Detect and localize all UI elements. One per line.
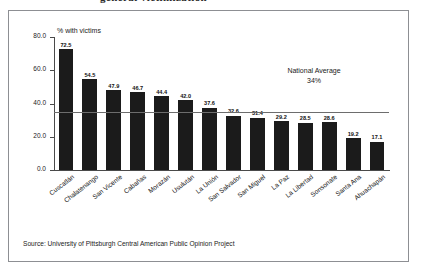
bar-slot: 47.9 [106, 37, 121, 170]
bar-value-label: 54.5 [84, 72, 95, 78]
bar-value-label: 42.0 [180, 93, 191, 99]
bar-slot: 37.6 [202, 37, 217, 170]
y-axis-tick-label: 40.0 [33, 99, 46, 106]
bar-slot: 44.4 [154, 37, 169, 170]
bar-slot: 28.5 [298, 37, 313, 170]
x-axis-category-label: La Paz [270, 173, 290, 191]
bar-slot: 19.2 [346, 37, 361, 170]
bar-value-label: 72.5 [60, 42, 71, 48]
bar-slot: 72.5 [59, 37, 74, 170]
x-axis-line [54, 170, 390, 171]
bar[interactable] [274, 121, 289, 170]
bar-slot: 54.5 [82, 37, 97, 170]
bar-value-label: 46.7 [132, 85, 143, 91]
x-axis-category-label: Morazán [146, 173, 171, 194]
bar-value-label: 47.9 [108, 83, 119, 89]
bar[interactable] [370, 142, 385, 170]
y-axis-tick-mark [50, 170, 54, 171]
national-average-title: National Average [259, 66, 369, 76]
bar[interactable] [346, 138, 361, 170]
bar-value-label: 37.6 [204, 100, 215, 106]
y-axis-label: % with victims [57, 27, 101, 34]
bar-slot: 31.4 [250, 37, 265, 170]
page-title: general victimization [100, 0, 207, 3]
bar-value-label: 44.4 [156, 89, 167, 95]
bar[interactable] [106, 90, 121, 170]
bar-slot: 42.0 [178, 37, 193, 170]
bar[interactable] [130, 92, 145, 170]
y-axis-tick-label: 60.0 [33, 65, 46, 72]
bar[interactable] [226, 116, 241, 170]
bar-slot: 28.6 [322, 37, 337, 170]
bar[interactable] [59, 49, 74, 170]
bar-slot: 46.7 [130, 37, 145, 170]
bar-value-label: 17.1 [372, 134, 383, 140]
bar[interactable] [202, 108, 217, 171]
plot-area: 72.554.547.946.744.442.037.632.631.429.2… [54, 37, 389, 170]
national-average-line [54, 112, 389, 113]
bar-value-label: 28.6 [324, 115, 335, 121]
figure-frame: % with victims 0.020.040.060.080.0 72.55… [8, 10, 409, 262]
bar[interactable] [298, 123, 313, 170]
x-axis-category-label: Usulután [170, 173, 195, 195]
national-average-annotation: National Average 34% [259, 66, 369, 86]
page-title-strip: general victimization [0, 0, 421, 9]
bar[interactable] [250, 118, 265, 170]
source-note: Source: University of Pittsburgh Central… [23, 240, 234, 247]
bar-slot: 32.6 [226, 37, 241, 170]
bar[interactable] [154, 96, 169, 170]
bar-value-label: 28.5 [300, 115, 311, 121]
bar-value-label: 19.2 [348, 131, 359, 137]
bar-slot: 17.1 [370, 37, 385, 170]
y-axis-tick-label: 0.0 [37, 165, 46, 172]
bar[interactable] [178, 100, 193, 170]
y-axis-tick-label: 20.0 [33, 132, 46, 139]
bar[interactable] [82, 79, 97, 170]
x-axis-category-label: Cabañas [122, 173, 147, 195]
y-axis-tick-label: 80.0 [33, 32, 46, 39]
bar[interactable] [322, 122, 337, 170]
bar-slot: 29.2 [274, 37, 289, 170]
national-average-value: 34% [259, 76, 369, 86]
